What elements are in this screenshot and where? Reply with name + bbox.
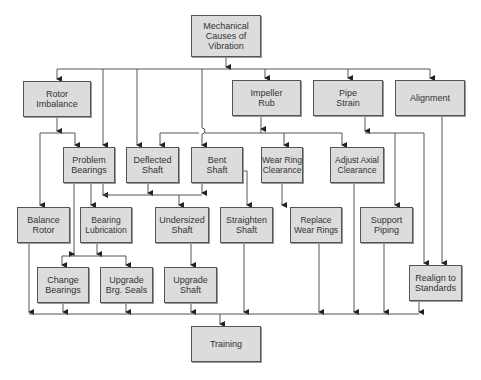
node-straighten-shaft: Straighten Shaft: [220, 207, 273, 243]
node-bearing-lubrication: Bearing Lubrication: [80, 207, 132, 243]
node-wear-ring-clearance: Wear Ring Clearance: [261, 147, 303, 183]
node-change-bearings: Change Bearings: [37, 267, 89, 303]
node-bent-shaft: Bent Shaft: [191, 147, 243, 183]
node-deflected-shaft: Deflected Shaft: [126, 147, 179, 183]
node-replace-wear-rings: Replace Wear Rings: [290, 207, 342, 243]
node-undersized-shaft: Undersized Shaft: [155, 207, 209, 243]
node-pipe-strain: Pipe Strain: [313, 80, 383, 116]
node-alignment: Alignment: [395, 80, 465, 116]
node-balance-rotor: Balance Rotor: [17, 207, 70, 243]
connector-lines: [0, 0, 481, 380]
node-training: Training: [191, 326, 261, 362]
vibration-cause-flowchart: Mechanical Causes of Vibration Rotor Imb…: [0, 0, 481, 380]
node-rotor-imbalance: Rotor Imbalance: [23, 81, 91, 117]
node-problem-bearings: Problem Bearings: [63, 147, 115, 183]
node-support-piping: Support Piping: [360, 207, 413, 243]
node-impeller-rub: Impeller Rub: [232, 80, 301, 116]
node-upgrade-shaft: Upgrade Shaft: [164, 267, 217, 303]
node-adjust-axial-clearance: Adjust Axial Clearance: [330, 147, 384, 183]
node-upgrade-brg-seals: Upgrade Brg. Seals: [100, 267, 153, 303]
node-mechanical-causes: Mechanical Causes of Vibration: [191, 15, 261, 57]
node-realign-to-standards: Realign to Standards: [409, 265, 462, 301]
